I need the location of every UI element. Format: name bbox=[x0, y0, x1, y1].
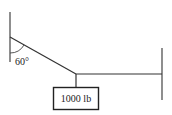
force-diagram: 60° 1000 lb bbox=[0, 0, 172, 115]
angle-label: 60° bbox=[15, 56, 29, 67]
angle-arc bbox=[10, 45, 24, 53]
weight-label: 1000 lb bbox=[61, 93, 91, 104]
diagram-canvas: 60° 1000 lb bbox=[0, 0, 172, 115]
